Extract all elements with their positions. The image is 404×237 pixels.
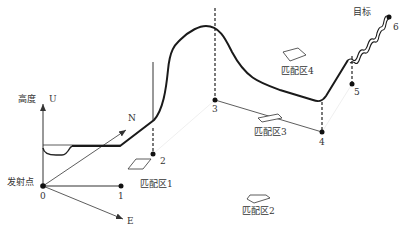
waypoint-6-label: 6 bbox=[393, 23, 399, 32]
waypoint-4-dot bbox=[320, 130, 325, 135]
matching-zone-2-label: 匹配区2 bbox=[242, 207, 275, 216]
waypoint-4-label: 4 bbox=[319, 138, 325, 147]
matching-zone-3-label: 匹配区3 bbox=[254, 128, 287, 137]
matching-zone-4-label: 匹配区4 bbox=[281, 67, 314, 76]
waypoint-2-dot bbox=[151, 152, 156, 157]
e-axis-label: E bbox=[127, 217, 134, 226]
e-axis bbox=[43, 186, 123, 219]
n-axis-label: N bbox=[128, 114, 136, 123]
terminal-wave-outer bbox=[348, 16, 387, 60]
matching-zone-1-label: 匹配区1 bbox=[140, 180, 173, 189]
trajectory-diagram: 高度 U N E 发射点 目标 0 1 2 3 4 5 6 匹配区1 匹配区2 … bbox=[0, 0, 404, 237]
waypoint-0-dot bbox=[40, 183, 46, 189]
altitude-label: 高度 bbox=[18, 95, 36, 104]
waypoint-3-label: 3 bbox=[212, 105, 218, 114]
ground-track-2-3 bbox=[153, 100, 215, 154]
waypoint-0-label: 0 bbox=[40, 192, 46, 201]
n-axis bbox=[43, 130, 126, 186]
waypoint-3-dot bbox=[213, 98, 218, 103]
u-axis-label: U bbox=[49, 95, 57, 104]
ground-track-4-5 bbox=[322, 84, 352, 132]
matching-zone-2-shape bbox=[247, 195, 270, 203]
origin-label: 发射点 bbox=[7, 178, 34, 187]
matching-zone-4-shape bbox=[283, 48, 306, 61]
waypoint-5-label: 5 bbox=[354, 88, 360, 97]
matching-zone-1-shape bbox=[128, 159, 151, 169]
waypoint-6-dot bbox=[387, 15, 392, 20]
waypoint-1-dot bbox=[119, 184, 124, 189]
launch-dip bbox=[43, 146, 72, 155]
target-label: 目标 bbox=[353, 8, 371, 17]
diagram-canvas bbox=[0, 0, 404, 237]
trajectory-path bbox=[72, 26, 348, 146]
matching-zone-3-shape bbox=[258, 114, 282, 122]
waypoint-2-label: 2 bbox=[160, 157, 166, 166]
waypoint-5-dot bbox=[350, 82, 355, 87]
waypoint-1-label: 1 bbox=[118, 192, 124, 201]
